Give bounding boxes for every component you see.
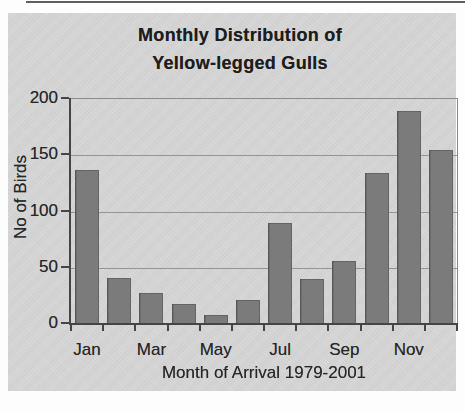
bar-sep bbox=[332, 261, 356, 324]
y-axis-title: No of Birds bbox=[11, 117, 31, 277]
x-tick-label-mar: Mar bbox=[121, 341, 181, 359]
bar-jun bbox=[236, 300, 260, 324]
x-tick-9 bbox=[360, 325, 362, 331]
chart-title-line1: Monthly Distribution of bbox=[16, 21, 464, 49]
plot-area bbox=[71, 98, 458, 324]
bar-apr bbox=[172, 304, 196, 324]
x-tick-2 bbox=[134, 325, 136, 331]
bar-jul bbox=[268, 223, 292, 324]
x-tick-label-jul: Jul bbox=[250, 341, 310, 359]
y-tick-100 bbox=[61, 210, 69, 212]
y-axis-line bbox=[69, 98, 71, 325]
x-tick-6 bbox=[263, 325, 265, 331]
bar-feb bbox=[107, 278, 131, 324]
x-tick-label-may: May bbox=[186, 341, 246, 359]
x-tick-1 bbox=[102, 325, 104, 331]
scanned-chart-image: Monthly Distribution of Yellow-legged Gu… bbox=[0, 0, 465, 412]
x-tick-12 bbox=[456, 325, 458, 331]
bar-nov bbox=[397, 111, 421, 324]
scan-wrapper: Monthly Distribution of Yellow-legged Gu… bbox=[0, 0, 465, 412]
bar-mar bbox=[139, 293, 163, 325]
x-tick-label-nov: Nov bbox=[379, 341, 439, 359]
x-tick-5 bbox=[231, 325, 233, 331]
x-tick-10 bbox=[392, 325, 394, 331]
bar-oct bbox=[365, 173, 389, 324]
bar-jan bbox=[75, 170, 99, 324]
chart-title-line2: Yellow-legged Gulls bbox=[16, 49, 464, 77]
y-tick-0 bbox=[61, 322, 69, 324]
x-tick-3 bbox=[167, 325, 169, 331]
y-tick-label-0: 0 bbox=[12, 314, 58, 332]
y-tick-150 bbox=[61, 153, 69, 155]
chart-title: Monthly Distribution of Yellow-legged Gu… bbox=[16, 21, 464, 77]
bar-aug bbox=[300, 279, 324, 324]
x-tick-11 bbox=[424, 325, 426, 331]
x-tick-label-jan: Jan bbox=[57, 341, 117, 359]
x-tick-8 bbox=[327, 325, 329, 331]
x-axis-title: Month of Arrival 1979-2001 bbox=[71, 363, 457, 383]
y-tick-200 bbox=[61, 97, 69, 99]
x-tick-4 bbox=[199, 325, 201, 331]
scan-artifact-line bbox=[26, 1, 465, 3]
x-tick-0 bbox=[70, 325, 72, 331]
bar-dec bbox=[429, 150, 453, 324]
x-tick-label-sep: Sep bbox=[314, 341, 374, 359]
x-tick-7 bbox=[295, 325, 297, 331]
y-tick-50 bbox=[61, 266, 69, 268]
y-tick-label-200: 200 bbox=[12, 89, 58, 107]
